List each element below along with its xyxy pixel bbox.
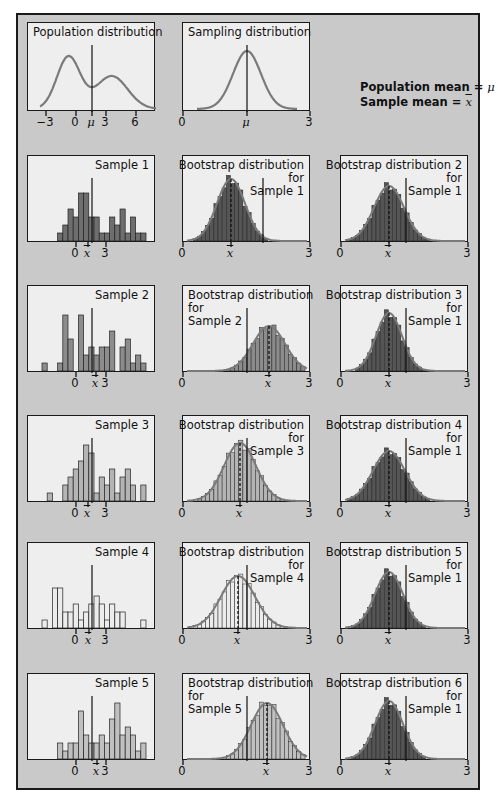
panel-boot3_s1: Bootstrap distribution 3 for Sample 1 xyxy=(340,285,468,372)
panel-boot_s2: Bootstrap distribution for Sample 2 xyxy=(182,285,310,372)
tick-label: x xyxy=(265,376,272,390)
tick-label: 0 xyxy=(336,633,343,647)
tick-label: 0 xyxy=(336,506,343,520)
panel-sample4: Sample 4 xyxy=(27,542,155,629)
plot-area xyxy=(183,416,311,503)
tick-label: 6 xyxy=(131,115,138,129)
tick-label: 3 xyxy=(463,246,470,260)
tick-label: 3 xyxy=(305,506,312,520)
panel-boot_s3: Bootstrap distribution for Sample 3 xyxy=(182,415,310,502)
panel-sample1: Sample 1 xyxy=(27,155,155,242)
panel-boot4_s1: Bootstrap distribution 4 for Sample 1 xyxy=(340,415,468,502)
plot-area xyxy=(28,674,156,761)
tick-label: x xyxy=(385,633,392,647)
plot-area xyxy=(183,674,311,761)
tick-label: 0 xyxy=(178,376,185,390)
panel-sample2: Sample 2 xyxy=(27,285,155,372)
panel-boot6_s1: Bootstrap distribution 6 for Sample 1 xyxy=(340,673,468,760)
tick-label: μ xyxy=(87,115,94,129)
tick-label: 0 xyxy=(178,506,185,520)
tick-label: x xyxy=(84,506,91,520)
tick-label: 3 xyxy=(305,633,312,647)
tick-label: 0 xyxy=(71,506,78,520)
tick-label: 0 xyxy=(336,764,343,778)
tick-label: 3 xyxy=(463,633,470,647)
tick-label: 3 xyxy=(463,376,470,390)
legend-population-mean: Population mean = μ xyxy=(360,80,495,95)
tick-label: 0 xyxy=(336,376,343,390)
mu-symbol: μ xyxy=(487,80,494,94)
legend-label: Sample mean = xyxy=(360,95,465,109)
tick-label: 0 xyxy=(178,115,185,129)
tick-label: x xyxy=(263,764,270,778)
xbar-symbol: x xyxy=(465,95,472,109)
tick-label: 0 xyxy=(71,376,78,390)
legend: Population mean = μ Sample mean = x xyxy=(360,80,495,110)
panel-boot2_s1: Bootstrap distribution 2 for Sample 1 xyxy=(340,155,468,242)
tick-label: 0 xyxy=(178,246,185,260)
tick-label: x xyxy=(227,246,234,260)
tick-label: 3 xyxy=(101,764,108,778)
tick-label: x xyxy=(385,246,392,260)
tick-label: 0 xyxy=(71,115,78,129)
plot-area xyxy=(183,286,311,373)
panel-sample5: Sample 5 xyxy=(27,673,155,760)
plot-area xyxy=(183,23,311,112)
panel-sampling: Sampling distribution xyxy=(182,22,310,111)
tick-label: x xyxy=(234,633,241,647)
tick-label: 0 xyxy=(71,764,78,778)
tick-label: 3 xyxy=(305,115,312,129)
panel-boot_s1: Bootstrap distribution for Sample 1 xyxy=(182,155,310,242)
tick-label: x xyxy=(236,506,243,520)
tick-label: x xyxy=(93,764,100,778)
tick-label: 3 xyxy=(463,506,470,520)
tick-label: x xyxy=(385,506,392,520)
tick-label: 0 xyxy=(178,764,185,778)
tick-label: 3 xyxy=(305,246,312,260)
plot-area xyxy=(341,286,469,373)
plot-area xyxy=(183,156,311,243)
tick-label: 3 xyxy=(101,115,108,129)
panel-boot_s4: Bootstrap distribution for Sample 4 xyxy=(182,542,310,629)
tick-label: μ xyxy=(242,115,249,129)
plot-area xyxy=(28,23,156,112)
tick-label: 3 xyxy=(101,506,108,520)
plot-area xyxy=(341,674,469,761)
tick-label: 3 xyxy=(101,376,108,390)
tick-label: 3 xyxy=(463,764,470,778)
tick-label: −3 xyxy=(37,115,54,129)
plot-area xyxy=(341,543,469,630)
panel-boot_s5: Bootstrap distribution for Sample 5 xyxy=(182,673,310,760)
tick-label: 0 xyxy=(178,633,185,647)
tick-label: x xyxy=(84,246,91,260)
plot-area xyxy=(183,543,311,630)
tick-label: 0 xyxy=(71,246,78,260)
panel-sample3: Sample 3 xyxy=(27,415,155,502)
tick-label: 3 xyxy=(305,764,312,778)
legend-label: Population mean = xyxy=(360,80,487,94)
tick-label: 3 xyxy=(305,376,312,390)
plot-area xyxy=(341,416,469,503)
plot-area xyxy=(28,543,156,630)
plot-area xyxy=(341,156,469,243)
tick-label: 3 xyxy=(101,633,108,647)
tick-label: x xyxy=(385,764,392,778)
plot-area xyxy=(28,416,156,503)
plot-area xyxy=(28,286,156,373)
legend-sample-mean: Sample mean = x xyxy=(360,95,495,110)
panel-population: Population distribution xyxy=(27,22,155,111)
tick-label: 0 xyxy=(336,246,343,260)
tick-label: x xyxy=(92,376,99,390)
tick-label: x xyxy=(385,376,392,390)
panel-boot5_s1: Bootstrap distribution 5 for Sample 1 xyxy=(340,542,468,629)
tick-label: 0 xyxy=(71,633,78,647)
tick-label: 3 xyxy=(101,246,108,260)
tick-label: x xyxy=(85,633,92,647)
plot-area xyxy=(28,156,156,243)
